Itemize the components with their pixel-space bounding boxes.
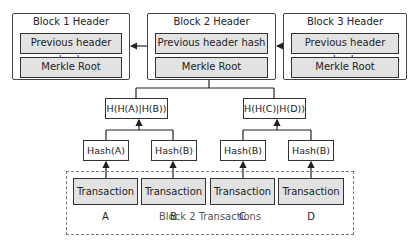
block-2-merkle-root: Merkle Root bbox=[155, 57, 268, 78]
hash-node-cd: H(H(C)|H(D)) bbox=[243, 98, 306, 119]
block-3-merkle-root: Merkle Root bbox=[291, 57, 399, 78]
hash-d: Hash(B) bbox=[288, 140, 334, 161]
hash-b: Hash(B) bbox=[151, 140, 197, 161]
block-1-prev-hash: Previous header hash bbox=[20, 33, 122, 54]
block-3-title: Block 3 Header bbox=[284, 16, 406, 27]
block-1-merkle-root: Merkle Root bbox=[20, 57, 122, 78]
hash-c: Hash(B) bbox=[220, 140, 266, 161]
block-2-prev-hash: Previous header hash bbox=[155, 33, 268, 54]
transaction-a: Transaction A bbox=[73, 178, 138, 205]
block-2-title: Block 2 Header bbox=[148, 16, 275, 27]
block-2-header: Block 2 Header Previous header hash Merk… bbox=[147, 13, 276, 80]
hash-node-ab: H(H(A)|H(B)) bbox=[105, 98, 168, 119]
block-3-header: Block 3 Header Previous header hash Merk… bbox=[283, 13, 407, 80]
block-1-title: Block 1 Header bbox=[13, 16, 129, 27]
block-1-header: Block 1 Header Previous header hash Merk… bbox=[12, 13, 130, 80]
transaction-b: Transaction B bbox=[141, 178, 206, 205]
block-3-prev-hash: Previous header hash bbox=[291, 33, 399, 54]
hash-a: Hash(A) bbox=[83, 140, 129, 161]
transaction-d: Transaction D bbox=[278, 178, 344, 205]
block-2-transactions-label: Block 2 Transactions bbox=[66, 211, 354, 225]
transaction-c: Transaction C bbox=[210, 178, 275, 205]
